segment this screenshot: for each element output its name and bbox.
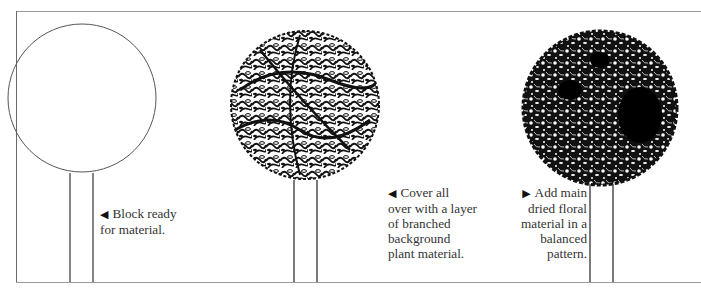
arrow-left-icon: ◀ — [100, 208, 108, 220]
caption-line: dried floral — [497, 201, 587, 216]
caption-step1: ◀Block ready for material. — [100, 206, 177, 237]
caption-line: of branched — [388, 216, 477, 231]
caption-line: Cover all — [400, 185, 449, 200]
caption-step2: ◀Cover all over with a layer of branched… — [388, 185, 477, 261]
tree-branched-foliage — [225, 25, 385, 282]
illustration — [0, 0, 701, 290]
caption-line: balanced — [497, 231, 587, 246]
caption-step3: ▶Add main dried floral material in a bal… — [497, 185, 587, 261]
caption-line: pattern. — [497, 246, 587, 261]
caption-line: background — [388, 231, 477, 246]
caption-line: over with a layer — [388, 201, 477, 216]
caption-line: Block ready — [112, 206, 176, 221]
caption-line: Add main — [535, 185, 587, 200]
caption-line: material in a — [497, 216, 587, 231]
tree-empty-block — [8, 24, 156, 282]
caption-line: for material. — [100, 222, 177, 237]
caption-line: plant material. — [388, 246, 477, 261]
arrow-left-icon: ◀ — [388, 187, 396, 199]
arrow-right-icon: ▶ — [522, 187, 530, 199]
